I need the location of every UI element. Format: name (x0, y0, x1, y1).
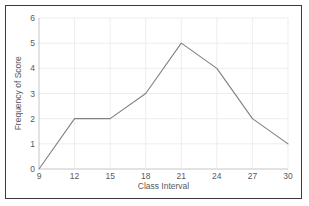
y-axis-title: Frequency of Score (12, 18, 24, 169)
y-axis-title-text: Frequency of Score (14, 56, 23, 130)
plot-area: 0123456 912151821242730 (39, 18, 288, 169)
chart-frame: Frequency of Score 0123456 9121518212427… (5, 5, 302, 199)
x-axis-tick-15: 15 (105, 172, 114, 181)
x-axis-tick-9: 9 (37, 172, 42, 181)
x-axis-tick-18: 18 (141, 172, 150, 181)
x-axis-tick-27: 27 (248, 172, 257, 181)
y-axis-tick-2: 2 (30, 114, 35, 123)
y-axis-tick-4: 4 (30, 64, 35, 73)
chart-plot-wrapper: Frequency of Score 0123456 9121518212427… (6, 6, 301, 198)
x-axis-tick-12: 12 (70, 172, 79, 181)
x-axis-tick-24: 24 (212, 172, 221, 181)
y-axis-tick-1: 1 (30, 140, 35, 149)
y-axis-tick-3: 3 (30, 89, 35, 98)
y-axis-tick-0: 0 (30, 165, 35, 174)
y-axis-tick-6: 6 (30, 14, 35, 23)
x-axis-tick-21: 21 (177, 172, 186, 181)
y-axis-tick-5: 5 (30, 39, 35, 48)
x-axis-tick-30: 30 (283, 172, 292, 181)
line-series-frequency-of-score (39, 18, 288, 169)
x-axis-title: Class Interval (39, 182, 288, 191)
